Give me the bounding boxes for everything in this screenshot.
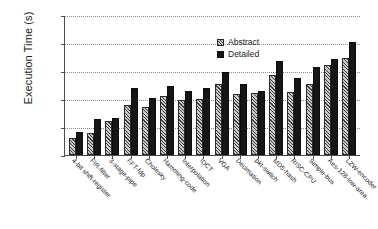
bar-group <box>267 16 285 155</box>
bar-abstract <box>178 100 185 155</box>
bar-group <box>158 16 176 155</box>
x-label-slot: Hamming-code <box>157 157 175 227</box>
x-label-slot: pkt-switch <box>249 157 267 227</box>
legend-item-abstract: Abstract <box>217 37 259 47</box>
bar-group <box>103 16 121 155</box>
bar-abstract <box>142 107 149 155</box>
bar-abstract <box>215 84 222 155</box>
bar-detailed <box>349 42 356 155</box>
chart-legend: Abstract Detailed <box>217 37 259 59</box>
bar-abstract <box>269 75 276 155</box>
bar-abstract <box>69 138 76 155</box>
bar-detailed <box>112 118 119 155</box>
bar-group <box>176 16 194 155</box>
bar-group <box>140 16 158 155</box>
x-label-slot: VGA <box>212 157 230 227</box>
bar-group <box>303 16 321 155</box>
x-label-slot: Interpolation <box>176 157 194 227</box>
bar-detailed <box>222 72 229 155</box>
legend-item-detailed: Detailed <box>217 49 259 59</box>
bar-detailed <box>167 86 174 155</box>
legend-swatch-abstract <box>217 39 224 46</box>
bar-abstract <box>233 94 240 155</box>
bar-abstract <box>124 105 131 155</box>
bar-group <box>322 16 340 155</box>
x-label-slot: Cholesky <box>139 157 157 227</box>
bar-abstract <box>160 96 167 155</box>
bar-abstract <box>324 65 331 155</box>
legend-label-detailed: Detailed <box>228 49 259 59</box>
y-axis-title: Execution Time (s) <box>22 0 34 138</box>
x-label-slot: 4-bit shift-register <box>66 157 84 227</box>
bar-group <box>285 16 303 155</box>
bar-abstract <box>196 99 203 155</box>
x-label-slot: Simple-bus <box>303 157 321 227</box>
x-label-slot: RISC-CPU <box>285 157 303 227</box>
x-label-slot: IDCT <box>194 157 212 227</box>
bar-abstract <box>251 93 258 155</box>
bar-detailed <box>313 67 320 155</box>
bar-detailed <box>294 78 301 155</box>
bar-detailed <box>76 132 83 155</box>
bar-detailed <box>94 119 101 155</box>
x-tick-label: LZW-encoder <box>345 157 378 190</box>
bar-detailed <box>203 88 210 155</box>
bar-detailed <box>185 91 192 155</box>
bar-group <box>85 16 103 155</box>
plot-area: 110100100010000100000 Abstract Detailed <box>64 16 360 156</box>
bar-detailed <box>149 98 156 155</box>
bar-groups <box>65 16 360 155</box>
bar-group <box>122 16 140 155</box>
bar-abstract <box>306 84 313 155</box>
bar-abstract <box>287 92 294 155</box>
x-label-slot: FIR-filter <box>84 157 102 227</box>
bar-abstract <box>105 121 112 155</box>
x-axis-tick-labels: 4-bit shift-registerFIR-filter3-stage-pi… <box>64 157 360 227</box>
x-label-slot: MD5-hash <box>267 157 285 227</box>
bar-detailed <box>131 88 138 155</box>
bar-detailed <box>276 61 283 155</box>
x-label-slot: LZW-encoder <box>340 157 358 227</box>
bar-group <box>67 16 85 155</box>
legend-label-abstract: Abstract <box>228 37 259 47</box>
bar-abstract <box>342 58 349 155</box>
x-label-slot: Aes-128-low-area <box>322 157 340 227</box>
bar-detailed <box>331 59 338 155</box>
legend-swatch-detailed <box>217 51 224 58</box>
bar-group <box>194 16 212 155</box>
bar-detailed <box>258 91 265 155</box>
x-label-slot: FFT-fdp <box>121 157 139 227</box>
bar-detailed <box>240 84 247 155</box>
x-label-slot: 3-stage-pipe <box>103 157 121 227</box>
bar-abstract <box>87 133 94 155</box>
x-label-slot: Decimation <box>230 157 248 227</box>
bar-group <box>340 16 358 155</box>
